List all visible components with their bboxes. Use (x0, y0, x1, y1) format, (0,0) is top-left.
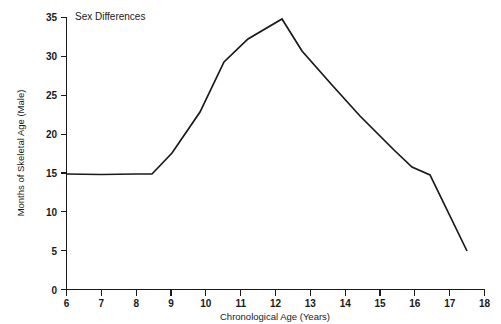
x-tick-label-14: 14 (340, 298, 352, 309)
sex-differences-annotation: Sex Differences (75, 11, 145, 22)
y-tick-label-5: 5 (51, 246, 57, 257)
x-tick-label-6: 6 (64, 298, 70, 309)
x-tick-label-10: 10 (200, 298, 212, 309)
chart-figure: 35 30 25 20 15 10 5 0 6 7 8 9 10 11 (0, 0, 501, 324)
x-tick-label-17: 17 (444, 298, 456, 309)
x-tick-label-13: 13 (305, 298, 317, 309)
y-tick-label-0: 0 (51, 285, 57, 296)
x-tick-label-9: 9 (168, 298, 174, 309)
x-tick-label-16: 16 (409, 298, 421, 309)
line-chart: 35 30 25 20 15 10 5 0 6 7 8 9 10 11 (0, 0, 501, 324)
y-tick-label-20: 20 (46, 129, 58, 140)
y-axis-ticks (61, 17, 67, 289)
x-tick-label-7: 7 (99, 298, 105, 309)
x-axis-ticks (67, 290, 485, 296)
x-tick-label-8: 8 (133, 298, 139, 309)
x-tick-label-11: 11 (235, 298, 246, 309)
y-tick-label-35: 35 (46, 12, 58, 23)
data-series-line (66, 19, 467, 251)
x-tick-label-12: 12 (270, 298, 282, 309)
y-tick-label-30: 30 (46, 51, 58, 62)
y-tick-label-15: 15 (46, 168, 58, 179)
x-tick-label-15: 15 (374, 298, 386, 309)
x-tick-label-18: 18 (479, 298, 491, 309)
y-tick-label-25: 25 (46, 90, 58, 101)
x-axis-title: Chronological Age (Years) (220, 311, 330, 322)
y-axis-title: Months of Skeletal Age (Male) (15, 90, 26, 217)
y-tick-label-10: 10 (46, 207, 58, 218)
